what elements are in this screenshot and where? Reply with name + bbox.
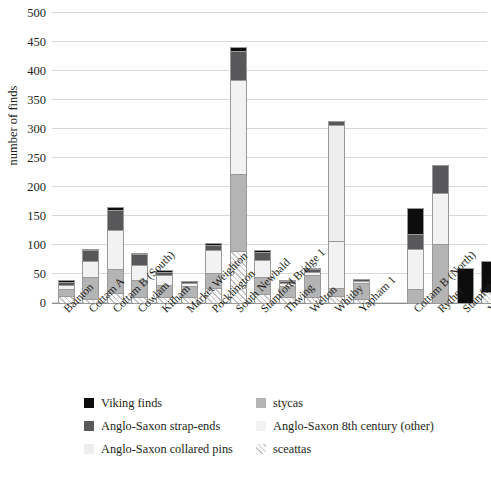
bar-segment xyxy=(108,270,123,294)
bar-segment xyxy=(408,209,423,235)
bar-segment xyxy=(255,295,270,303)
bar-segment xyxy=(132,255,147,267)
bar-segment xyxy=(482,293,491,303)
bar-segment xyxy=(83,262,98,278)
bar-welton xyxy=(305,269,320,303)
bar-segment xyxy=(231,81,246,176)
bar-yapham-1 xyxy=(354,280,369,303)
bar-south-newbald xyxy=(231,48,246,303)
legend-item: stycas xyxy=(256,396,484,410)
legend-swatch-icon xyxy=(84,398,94,408)
legend-swatch-icon xyxy=(256,444,266,454)
bar-segment xyxy=(59,290,74,297)
bar-segment xyxy=(433,245,448,303)
bar-segment xyxy=(255,261,270,278)
bar-segment xyxy=(206,251,221,274)
legend-swatch-icon xyxy=(84,421,94,431)
legend-item: Anglo-Saxon collared pins xyxy=(84,442,256,456)
bar-whitby xyxy=(329,122,344,304)
bar-segment xyxy=(157,286,172,299)
bar-segment xyxy=(59,297,74,303)
bar-segment xyxy=(280,298,295,303)
bar-segment xyxy=(206,289,221,304)
bar-thwing xyxy=(280,281,295,303)
bar-segment xyxy=(182,298,197,303)
legend-item: Anglo-Saxon 8th century (other) xyxy=(256,419,484,433)
bar-segment xyxy=(182,287,197,299)
chart-container: 050100150200250300350400450500 number of… xyxy=(0,0,491,482)
bar-segment xyxy=(157,298,172,303)
bar-segment xyxy=(408,235,423,250)
bar-cottam-b-south xyxy=(108,208,123,303)
bar-ryther xyxy=(433,166,448,303)
legend-item: Anglo-Saxon strap-ends xyxy=(84,419,256,433)
bar-segment xyxy=(329,297,344,303)
bar-kilham xyxy=(157,271,172,303)
legend-label: Anglo-Saxon 8th century (other) xyxy=(273,419,434,433)
bar-segment xyxy=(255,278,270,295)
bar-segment xyxy=(433,166,448,194)
bar-segment xyxy=(206,274,221,289)
bars-layer xyxy=(52,13,487,303)
bar-cowlam xyxy=(132,254,147,303)
legend-label: Viking finds xyxy=(101,396,162,410)
bar-segment xyxy=(329,126,344,242)
bar-segment xyxy=(132,281,147,298)
legend-label: sceattas xyxy=(273,442,311,456)
bar-segment xyxy=(231,52,246,80)
bar-segment xyxy=(83,251,98,262)
bar-segment xyxy=(83,278,98,300)
bar-segment xyxy=(482,262,491,292)
legend-item: Viking finds xyxy=(84,396,256,410)
y-axis-title: number of finds xyxy=(6,51,21,201)
bar-segment xyxy=(408,250,423,291)
bar-segment xyxy=(108,294,123,303)
bar-segment xyxy=(231,252,246,303)
bar-cottam-a xyxy=(83,250,98,303)
bar-segment xyxy=(354,284,369,299)
legend-label: Anglo-Saxon collared pins xyxy=(101,442,233,456)
bar-segment xyxy=(108,231,123,270)
bar-segment xyxy=(132,298,147,303)
bar-segment xyxy=(255,253,270,261)
bar-stamford-bridge-1 xyxy=(255,251,270,303)
legend-label: Anglo-Saxon strap-ends xyxy=(101,419,220,433)
bar-segment xyxy=(354,300,369,303)
bar-bainton xyxy=(59,281,74,303)
bar-yapham-2 xyxy=(482,262,491,303)
bar-segment xyxy=(108,211,123,231)
bar-segment xyxy=(408,290,423,303)
bar-segment xyxy=(305,298,320,303)
bar-market-weighton xyxy=(182,282,197,303)
legend-swatch-icon xyxy=(256,421,266,431)
legend-label: stycas xyxy=(273,396,303,410)
bar-segment xyxy=(329,289,344,298)
legend-swatch-icon xyxy=(84,444,94,454)
legend-item: sceattas xyxy=(256,442,484,456)
bar-cottam-b-north xyxy=(408,209,423,303)
bar-segment xyxy=(433,194,448,245)
legend-swatch-icon xyxy=(256,398,266,408)
bar-segment xyxy=(132,266,147,281)
bar-segment xyxy=(280,287,295,299)
bar-segment xyxy=(231,175,246,252)
bar-segment xyxy=(157,276,172,285)
bar-segment xyxy=(458,269,473,303)
legend: Viking findsstycasAnglo-Saxon strap-ends… xyxy=(84,396,484,456)
bar-stamford-bridge-2 xyxy=(458,269,473,303)
bar-pocklington xyxy=(206,244,221,303)
bar-segment xyxy=(329,242,344,288)
bar-segment xyxy=(305,276,320,298)
bar-segment xyxy=(83,300,98,303)
